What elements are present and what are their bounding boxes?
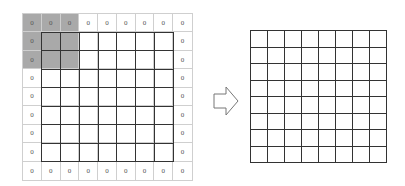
output-cell — [319, 147, 336, 164]
output-cell — [370, 81, 387, 98]
input-cell — [98, 125, 117, 143]
input-cell — [117, 51, 136, 69]
input-cell — [61, 106, 80, 124]
output-cell — [319, 81, 336, 98]
output-cell — [319, 64, 336, 81]
output-cell — [336, 130, 353, 147]
input-cell — [79, 32, 98, 50]
padding-cell: 0 — [23, 32, 42, 50]
padding-cell: 0 — [61, 162, 80, 180]
padding-cell: 0 — [173, 125, 192, 143]
padding-cell: 0 — [173, 69, 192, 87]
padding-cell: 0 — [98, 162, 117, 180]
output-cell — [336, 97, 353, 114]
padding-cell: 0 — [117, 14, 136, 32]
padding-cell: 0 — [23, 51, 42, 69]
padding-cell: 0 — [42, 14, 61, 32]
padding-cell: 0 — [136, 162, 155, 180]
output-cell — [353, 114, 370, 131]
output-cell — [251, 31, 268, 48]
output-cell — [302, 97, 319, 114]
output-cell — [353, 130, 370, 147]
output-cell — [268, 81, 285, 98]
output-cell — [370, 130, 387, 147]
input-cell — [42, 125, 61, 143]
output-cell — [319, 48, 336, 65]
input-cell — [136, 106, 155, 124]
output-cell — [285, 81, 302, 98]
output-cell — [370, 48, 387, 65]
padding-cell: 0 — [23, 125, 42, 143]
input-cell — [79, 125, 98, 143]
padding-cell: 0 — [23, 143, 42, 161]
input-cell — [42, 69, 61, 87]
output-cell — [302, 130, 319, 147]
input-cell — [79, 88, 98, 106]
output-cell — [251, 130, 268, 147]
padding-cell: 0 — [23, 69, 42, 87]
input-cell — [79, 51, 98, 69]
input-cell — [61, 125, 80, 143]
input-cell — [154, 143, 173, 161]
output-cell — [370, 64, 387, 81]
output-cell — [285, 48, 302, 65]
input-cell — [154, 88, 173, 106]
input-cell — [154, 69, 173, 87]
input-cell — [42, 88, 61, 106]
output-cell — [302, 64, 319, 81]
input-cell — [117, 32, 136, 50]
input-padded-grid: 00000000000000000000000000000000 — [22, 13, 193, 181]
output-cell — [336, 114, 353, 131]
input-cell — [42, 106, 61, 124]
input-cell — [136, 51, 155, 69]
input-cell — [98, 143, 117, 161]
output-grid — [250, 30, 387, 163]
output-cell — [336, 64, 353, 81]
padding-cell: 0 — [136, 14, 155, 32]
output-cell — [302, 81, 319, 98]
output-cell — [336, 81, 353, 98]
padding-cell: 0 — [79, 14, 98, 32]
input-cell — [98, 69, 117, 87]
output-cell — [302, 31, 319, 48]
output-cell — [302, 114, 319, 131]
output-cell — [268, 97, 285, 114]
output-cell — [268, 48, 285, 65]
output-cell — [285, 31, 302, 48]
output-cell — [370, 31, 387, 48]
input-cell — [79, 69, 98, 87]
padding-cell: 0 — [173, 88, 192, 106]
input-cell — [136, 88, 155, 106]
padding-cell: 0 — [98, 14, 117, 32]
output-cell — [353, 97, 370, 114]
output-cell — [353, 31, 370, 48]
padding-cell: 0 — [173, 32, 192, 50]
output-cell — [268, 114, 285, 131]
input-cell — [42, 143, 61, 161]
output-cell — [370, 114, 387, 131]
output-cell — [336, 147, 353, 164]
input-cell — [117, 106, 136, 124]
output-cell — [336, 48, 353, 65]
input-cell — [98, 88, 117, 106]
padding-cell: 0 — [79, 162, 98, 180]
output-cell — [370, 147, 387, 164]
output-cell — [336, 31, 353, 48]
padding-cell: 0 — [23, 162, 42, 180]
input-cell — [98, 51, 117, 69]
padding-cell: 0 — [23, 88, 42, 106]
input-cell — [98, 32, 117, 50]
input-cell — [154, 106, 173, 124]
padding-cell: 0 — [173, 162, 192, 180]
output-cell — [353, 48, 370, 65]
padding-cell: 0 — [173, 14, 192, 32]
output-cell — [353, 81, 370, 98]
padding-cell: 0 — [173, 51, 192, 69]
output-cell — [302, 48, 319, 65]
input-cell — [136, 125, 155, 143]
padding-cell: 0 — [23, 14, 42, 32]
output-cell — [319, 130, 336, 147]
padding-cell: 0 — [117, 162, 136, 180]
input-cell — [98, 106, 117, 124]
input-cell — [154, 51, 173, 69]
